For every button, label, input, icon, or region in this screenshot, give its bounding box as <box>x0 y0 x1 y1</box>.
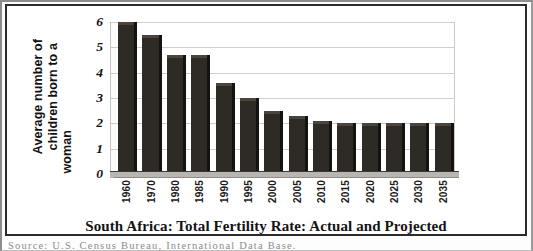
bar-2010 <box>313 22 329 174</box>
bar-side-face <box>183 55 186 172</box>
bar-top-face <box>167 55 183 58</box>
y-tick-label-3: 3 <box>96 90 103 106</box>
bar-body <box>337 123 353 174</box>
bar-2005 <box>289 22 305 174</box>
bar-side-face <box>402 123 405 172</box>
bar-side-face <box>329 121 332 172</box>
bar-side-face <box>207 55 210 172</box>
bar-side-face <box>280 111 283 172</box>
bar-side-face <box>426 123 429 172</box>
bar-side-face <box>378 123 381 172</box>
bar-1985 <box>191 22 207 174</box>
bar-body <box>362 123 378 174</box>
bar-1980 <box>167 22 183 174</box>
x-tick-label-1985: 1985 <box>194 180 205 203</box>
bar-side-face <box>305 116 308 172</box>
bar-1960 <box>118 22 134 174</box>
bar-2035 <box>435 22 451 174</box>
bar-body <box>435 123 451 174</box>
y-tick-label-2: 2 <box>96 115 103 131</box>
bar-top-face <box>337 123 353 126</box>
x-tick-label-1980: 1980 <box>170 180 181 203</box>
bar-2025 <box>386 22 402 174</box>
chart-floor-front-edge <box>114 177 459 178</box>
bar-top-face <box>216 83 232 86</box>
source-note: Source: U.S. Census Bureau, Internationa… <box>8 240 297 251</box>
x-tick-label-1960: 1960 <box>121 180 132 203</box>
bar-series <box>114 22 455 174</box>
x-tick-label-2035: 2035 <box>438 180 449 203</box>
chart-page: Average number of children born to a wom… <box>0 0 533 251</box>
bar-top-face <box>362 123 378 126</box>
x-tick-label-2025: 2025 <box>389 180 400 203</box>
x-tick-label-2030: 2030 <box>413 180 424 203</box>
bar-top-face <box>191 55 207 58</box>
x-tick-label-1970: 1970 <box>146 180 157 203</box>
bar-2020 <box>362 22 378 174</box>
x-tick-label-1990: 1990 <box>219 180 230 203</box>
bar-2000 <box>264 22 280 174</box>
bar-side-face <box>159 35 162 172</box>
bar-body <box>313 121 329 174</box>
bar-top-face <box>313 121 329 124</box>
bar-1995 <box>240 22 256 174</box>
bar-body <box>240 98 256 174</box>
bar-side-face <box>451 123 454 172</box>
bar-side-face <box>232 83 235 172</box>
y-tick-label-5: 5 <box>96 39 103 55</box>
bar-top-face <box>264 111 280 114</box>
bar-body <box>191 55 207 174</box>
y-tick-label-0: 0 <box>96 166 103 182</box>
bar-top-face <box>435 123 451 126</box>
bar-top-face <box>240 98 256 101</box>
chart-title: South Africa: Total Fertility Rate: Actu… <box>5 218 527 235</box>
bar-body <box>118 22 134 174</box>
x-axis-ticks: 1960197019801985199019952000200520102015… <box>114 180 459 216</box>
bar-top-face <box>289 116 305 119</box>
bar-top-face <box>386 123 402 126</box>
plot-area: 0123456 <box>110 22 455 174</box>
bar-body <box>386 123 402 174</box>
y-tick-label-1: 1 <box>96 141 103 157</box>
bar-body <box>216 83 232 174</box>
y-axis-title-line-2: children born to a <box>47 43 60 150</box>
bar-body <box>264 111 280 174</box>
bar-side-face <box>134 22 137 172</box>
x-tick-label-2000: 2000 <box>267 180 278 203</box>
bar-body <box>410 123 426 174</box>
bar-body <box>289 116 305 174</box>
y-axis-title: Average number of children born to a wom… <box>14 8 92 186</box>
bar-side-face <box>353 123 356 172</box>
bar-body <box>167 55 183 174</box>
bar-top-face <box>118 22 134 25</box>
bar-1990 <box>216 22 232 174</box>
x-tick-label-2015: 2015 <box>340 180 351 203</box>
y-axis-title-line-1: Average number of <box>32 39 45 154</box>
y-tick-label-4: 4 <box>96 65 103 81</box>
bar-top-face <box>142 35 158 38</box>
y-axis-title-line-3: woman <box>61 130 74 174</box>
y-tick-label-6: 6 <box>96 14 103 30</box>
x-tick-label-2010: 2010 <box>316 180 327 203</box>
x-tick-label-2005: 2005 <box>292 180 303 203</box>
bar-side-face <box>256 98 259 172</box>
bar-1970 <box>142 22 158 174</box>
x-tick-label-1995: 1995 <box>243 180 254 203</box>
bar-2015 <box>337 22 353 174</box>
bar-top-face <box>410 123 426 126</box>
bar-2030 <box>410 22 426 174</box>
bar-body <box>142 35 158 174</box>
x-tick-label-2020: 2020 <box>365 180 376 203</box>
